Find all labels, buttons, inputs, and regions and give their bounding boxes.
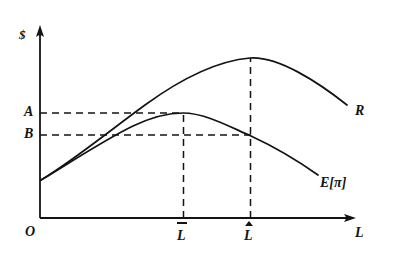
curve-label-r: R xyxy=(355,104,364,118)
dashed-guides-group xyxy=(40,58,251,218)
chart-canvas xyxy=(0,0,393,262)
x-tick-lhat-base: L xyxy=(244,228,253,243)
curve-label-e-pi: E[π] xyxy=(320,176,346,190)
y-level-label-a: A xyxy=(24,105,33,119)
curve-e-pi xyxy=(41,113,318,180)
circumflex-accent-icon xyxy=(245,221,253,226)
y-axis-label: $ xyxy=(19,28,26,41)
economics-diagram: $ A B O L L L R E[π] xyxy=(0,0,393,262)
y-level-label-b: B xyxy=(24,127,33,141)
curve-r xyxy=(41,58,347,180)
x-tick-lbar-base: L xyxy=(177,228,186,243)
overline-accent-icon xyxy=(177,222,187,224)
axes-group xyxy=(36,25,356,222)
curves-group xyxy=(41,58,347,180)
x-tick-label-lhat: L xyxy=(244,226,253,244)
x-tick-label-lbar: L xyxy=(177,226,186,244)
x-axis-label: L xyxy=(355,226,364,240)
origin-label: O xyxy=(25,225,35,239)
